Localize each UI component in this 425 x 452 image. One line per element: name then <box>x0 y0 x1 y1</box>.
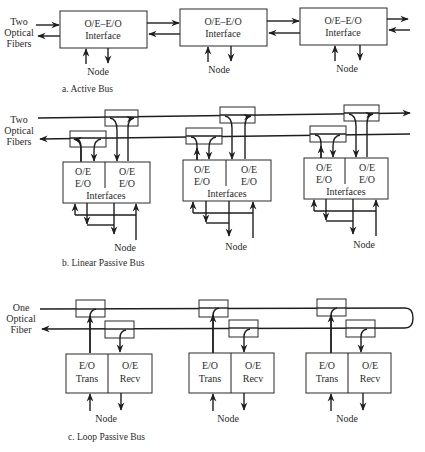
node-label: Node <box>353 239 375 250</box>
oe-label: O/E <box>194 164 210 175</box>
node-label: Node <box>336 63 358 74</box>
eo-label: E/O <box>202 360 218 371</box>
loop-node-3: E/O Trans O/E Recv Node <box>306 299 391 424</box>
passive-node-1: O/E E/O O/E E/O Interfaces Node <box>63 110 150 253</box>
oe-label: O/E <box>75 166 91 177</box>
fiber-label-line-2: Optical <box>4 125 34 136</box>
panel-caption: b. Linear Passive Bus <box>62 258 145 268</box>
interface-subtitle: Interface <box>205 28 241 39</box>
panel-loop-passive-bus: One Optical Fiber E/O Trans O/E Recv Nod… <box>6 299 413 442</box>
interface-title: O/E–E/O <box>204 16 241 27</box>
node-label: Node <box>114 242 136 253</box>
passive-node-3: O/E E/O O/E E/O Interfaces Node <box>304 105 388 250</box>
interfaces-label: Interfaces <box>326 186 366 197</box>
node-label: Node <box>208 64 230 75</box>
panel-caption: c. Loop Passive Bus <box>68 432 145 442</box>
eo-label: E/O <box>79 360 95 371</box>
interfaces-label: Interfaces <box>207 188 247 199</box>
fiber-label-line-1: Two <box>10 114 28 125</box>
trans-label: Trans <box>199 373 222 384</box>
trans-label: Trans <box>316 373 339 384</box>
loop-node-2: E/O Trans O/E Recv Node <box>189 300 274 424</box>
node-label: Node <box>95 413 117 424</box>
loop-node-1: E/O Trans O/E Recv Node <box>66 300 152 424</box>
eo-label: E/O <box>359 174 375 185</box>
oe-label: O/E <box>359 162 375 173</box>
interface-subtitle: Interface <box>85 30 121 41</box>
active-interface-1: O/E–E/O Interface Node <box>60 11 147 77</box>
interfaces-label: Interfaces <box>86 190 126 201</box>
fiber-label-line-1: Two <box>10 16 28 27</box>
interface-title: O/E–E/O <box>324 15 361 26</box>
recv-label: Recv <box>120 373 141 384</box>
node-label: Node <box>225 241 247 252</box>
oe-label: O/E <box>119 166 135 177</box>
eo-label: E/O <box>316 174 332 185</box>
interface-title: O/E–E/O <box>84 18 121 29</box>
oe-label: O/E <box>122 360 138 371</box>
eo-label: E/O <box>75 178 91 189</box>
node-label: Node <box>87 66 109 77</box>
active-interface-3: O/E–E/O Interface Node <box>300 8 387 74</box>
fiber-label-line-2: Optical <box>4 27 34 38</box>
panel-linear-passive-bus: Two Optical Fibers O/E E/O O/E E/O <box>4 105 410 268</box>
fiber-label-line-1: One <box>13 302 30 313</box>
trans-label: Trans <box>76 373 99 384</box>
passive-node-2: O/E E/O O/E E/O Interfaces Node <box>183 107 271 252</box>
node-label: Node <box>336 413 358 424</box>
eo-label: E/O <box>119 178 135 189</box>
oe-label: O/E <box>241 164 257 175</box>
eo-label: E/O <box>319 360 335 371</box>
fiber-label-line-2: Optical <box>6 313 36 324</box>
interface-subtitle: Interface <box>325 27 361 38</box>
node-label: Node <box>217 413 239 424</box>
fiber-label-line-3: Fibers <box>7 136 32 147</box>
fiber-label-line-3: Fiber <box>10 324 32 335</box>
optical-bus-topologies-diagram: Two Optical Fibers O/E–E/O Interface Nod… <box>0 0 425 452</box>
recv-label: Recv <box>360 373 381 384</box>
oe-label: O/E <box>245 360 261 371</box>
active-interface-2: O/E–E/O Interface Node <box>180 9 267 75</box>
eo-label: E/O <box>194 176 210 187</box>
fiber-label-line-3: Fibers <box>7 38 32 49</box>
oe-label: O/E <box>316 162 332 173</box>
recv-label: Recv <box>243 373 264 384</box>
eo-label: E/O <box>241 176 257 187</box>
panel-caption: a. Active Bus <box>62 84 113 94</box>
oe-label: O/E <box>362 360 378 371</box>
panel-active-bus: Two Optical Fibers O/E–E/O Interface Nod… <box>4 8 410 94</box>
